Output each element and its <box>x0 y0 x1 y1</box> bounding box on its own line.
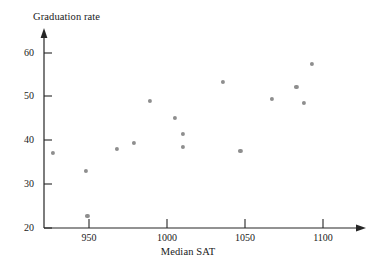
data-point <box>181 132 185 136</box>
plot-area: 60 50 40 30 20 950 1000 1050 1100 Gradua… <box>0 0 376 268</box>
data-point <box>269 97 273 101</box>
data-point <box>132 141 136 145</box>
data-point <box>238 149 242 153</box>
data-point <box>148 99 152 103</box>
data-point <box>173 116 177 120</box>
data-point <box>294 85 298 89</box>
data-point <box>115 147 119 151</box>
data-point <box>302 101 306 105</box>
scatter-plot-figure: 60 50 40 30 20 950 1000 1050 1100 Gradua… <box>0 0 376 268</box>
data-point <box>84 169 88 173</box>
data-point <box>310 62 314 66</box>
data-points-layer <box>0 0 376 268</box>
data-point <box>51 151 55 155</box>
data-point <box>85 214 89 218</box>
data-point <box>221 80 225 84</box>
data-point <box>181 145 185 149</box>
